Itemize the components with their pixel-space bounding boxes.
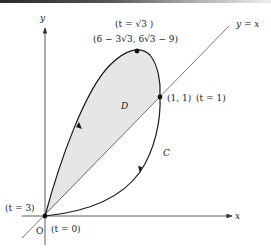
curve-c-label: C (163, 148, 170, 158)
t3-label: (t = 3) (5, 203, 35, 213)
top-point-coords-label: (6 − 3√3, 6√3 − 9) (93, 34, 178, 44)
top-point-param-label: (t = √3 ) (115, 19, 153, 29)
point-origin (43, 214, 48, 219)
y-axis-label: y (39, 13, 46, 23)
point-intersection (158, 95, 163, 100)
intersection-param: (t = 1) (196, 93, 226, 103)
t0-label: (t = 0) (51, 224, 81, 234)
point-top (135, 49, 140, 54)
line-label: y = x (235, 19, 259, 29)
parametric-curve-diagram: y x O y = x (t = √3 ) (6 − 3√3, 6√3 − 9)… (0, 0, 271, 249)
origin-label: O (36, 226, 43, 236)
intersection-coords: (1, 1) (167, 93, 191, 103)
x-axis-label: x (235, 211, 240, 221)
intersection-label: (1, 1) (t = 1) (167, 93, 226, 103)
region-d-label: D (120, 101, 128, 111)
region-d-shading (45, 50, 160, 216)
